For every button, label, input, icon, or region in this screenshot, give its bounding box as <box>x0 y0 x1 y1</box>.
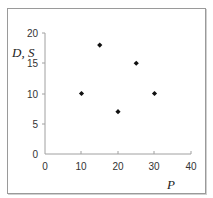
data-point-marker <box>152 91 157 96</box>
x-tick-label: 20 <box>112 161 124 172</box>
scatter-plot: 20 15 10 5 0 0 10 20 30 40 D, S P <box>0 0 213 198</box>
data-point-marker <box>79 91 84 96</box>
x-tick-label: 30 <box>148 161 160 172</box>
y-axis-label: D, S <box>11 45 35 60</box>
data-point-marker <box>134 61 139 66</box>
x-tick-label: 10 <box>75 161 87 172</box>
data-points <box>79 43 157 115</box>
x-axis-label: P <box>166 177 175 192</box>
x-tick-label: 0 <box>42 161 48 172</box>
y-tick-label: 20 <box>27 28 39 39</box>
x-tick-label: 40 <box>185 161 197 172</box>
y-tick-label: 10 <box>27 89 39 100</box>
data-point-marker <box>115 109 120 114</box>
y-tick-label: 0 <box>32 149 38 160</box>
data-point-marker <box>97 43 102 48</box>
y-tick-label: 5 <box>32 119 38 130</box>
